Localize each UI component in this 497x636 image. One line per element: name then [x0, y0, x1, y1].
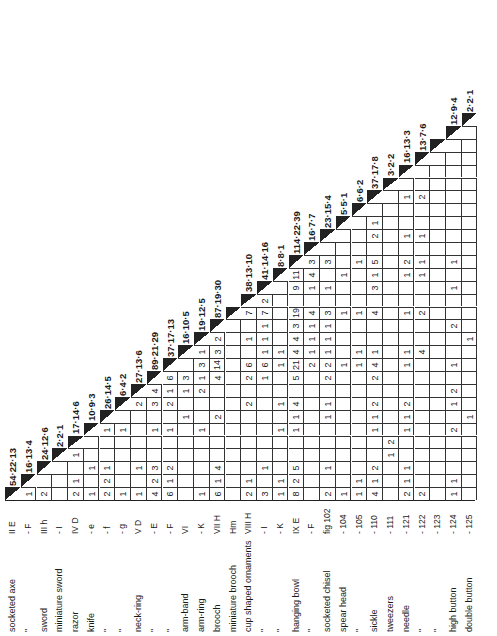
- diagonal-cell: [226, 307, 242, 320]
- matrix-cell: [462, 319, 478, 332]
- matrix-cell: 3: [320, 307, 336, 320]
- matrix-cell: [399, 294, 415, 307]
- cell-value: 3: [370, 285, 380, 290]
- cell-value: 1: [118, 427, 128, 432]
- matrix-cell: [430, 345, 446, 358]
- matrix-cell: 4: [210, 461, 226, 474]
- matrix-cell: [446, 242, 462, 255]
- matrix-cell: [462, 371, 478, 384]
- matrix-cell: 2: [415, 487, 431, 500]
- item-code: - 110: [369, 515, 379, 534]
- cell-value: 1: [370, 427, 380, 432]
- matrix-cell: [383, 190, 399, 203]
- matrix-cell: 1: [352, 487, 368, 500]
- matrix-cell: [430, 423, 446, 436]
- matrix-cell: 1: [289, 410, 305, 423]
- matrix-cell: 3: [367, 281, 383, 294]
- cell-value: 1: [196, 427, 206, 432]
- matrix-cell: [430, 319, 446, 332]
- matrix-cell: 4: [367, 307, 383, 320]
- matrix-cell: 1: [304, 281, 320, 294]
- cell-value: 2: [370, 375, 380, 380]
- matrix-cell: [336, 423, 352, 436]
- matrix-cell: 1: [399, 410, 415, 423]
- diagonal-cell: 26·14·5: [100, 410, 116, 423]
- matrix-cell: 5: [289, 371, 305, 384]
- matrix-cell: [289, 294, 305, 307]
- matrix-cell: [446, 332, 462, 345]
- cell-value: 4: [149, 388, 159, 393]
- matrix-cell: [289, 384, 305, 397]
- matrix-cell: [383, 384, 399, 397]
- matrix-cell: [52, 487, 68, 500]
- cell-value: 1: [165, 388, 175, 393]
- matrix-cell: 1: [273, 474, 289, 487]
- matrix-cell: 1: [367, 216, 383, 229]
- matrix-cell: [430, 229, 446, 242]
- cell-value: 2: [448, 427, 458, 432]
- matrix-cell: [383, 216, 399, 229]
- item-code: II E: [7, 521, 17, 534]
- matrix-cell: 2: [210, 410, 226, 423]
- cell-value: 2: [417, 492, 427, 497]
- cell-value: 1: [417, 272, 427, 277]
- matrix-cell: 1: [415, 229, 431, 242]
- matrix-cell: 1: [399, 423, 415, 436]
- matrix-cell: [383, 203, 399, 216]
- matrix-cell: 3: [289, 319, 305, 332]
- cell-value: 1: [370, 479, 380, 484]
- matrix-cell: 1: [210, 474, 226, 487]
- cell-value: 2: [417, 195, 427, 200]
- diagonal-total: 16·7·7: [306, 213, 317, 240]
- matrix-cell: [226, 397, 242, 410]
- matrix-cell: 1: [273, 423, 289, 436]
- diagonal-cell: 16·7·7: [304, 242, 320, 255]
- matrix-cell: 1: [304, 332, 320, 345]
- item-name: ": [149, 629, 159, 632]
- item-name: needle: [401, 605, 411, 632]
- cell-value: 4: [417, 350, 427, 355]
- item-name: double button: [464, 577, 474, 632]
- matrix-cell: [446, 216, 462, 229]
- matrix-cell: [289, 436, 305, 449]
- matrix-cell: [446, 139, 462, 152]
- matrix-cell: 6: [163, 371, 179, 384]
- matrix-cell: [320, 268, 336, 281]
- matrix-cell: [257, 448, 273, 461]
- matrix-cell: [352, 319, 368, 332]
- item-name: ": [102, 629, 112, 632]
- diagonal-triangle: [115, 397, 131, 410]
- diagonal-cell: 37·17·13: [163, 358, 179, 371]
- matrix-cell: [273, 384, 289, 397]
- diagonal-cell: 2·2·1: [52, 448, 68, 461]
- matrix-cell: [194, 397, 210, 410]
- matrix-cell: 4: [367, 487, 383, 500]
- cell-value: 1: [354, 311, 364, 316]
- cell-value: 3: [259, 492, 269, 497]
- matrix-cell: [226, 332, 242, 345]
- matrix-cell: 7: [241, 307, 257, 320]
- item-name: miniature brooch: [228, 565, 238, 632]
- cell-value: 2: [102, 479, 112, 484]
- matrix-cell: [462, 139, 478, 152]
- cell-value: 1: [291, 414, 301, 419]
- matrix-cell: [226, 358, 242, 371]
- item-code: - I: [259, 526, 269, 534]
- matrix-cell: 2: [241, 371, 257, 384]
- matrix-cell: 2: [257, 294, 273, 307]
- matrix-cell: [226, 423, 242, 436]
- diagonal-triangle: [336, 216, 352, 229]
- cell-value: 1: [464, 337, 474, 342]
- diagonal-triangle: [415, 152, 431, 165]
- item-code: V D: [133, 520, 143, 534]
- cell-value: 1: [291, 427, 301, 432]
- matrix-cell: [194, 436, 210, 449]
- diagonal-cell: 6·6·2: [352, 203, 368, 216]
- matrix-cell: [304, 384, 320, 397]
- matrix-cell: 2: [100, 474, 116, 487]
- matrix-cell: 1: [352, 474, 368, 487]
- matrix-cell: [446, 152, 462, 165]
- matrix-cell: 1: [320, 397, 336, 410]
- matrix-cell: [304, 448, 320, 461]
- matrix-cell: [446, 307, 462, 320]
